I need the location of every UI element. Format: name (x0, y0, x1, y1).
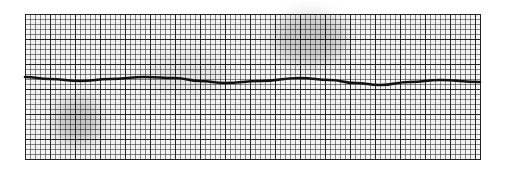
trace-line (0, 0, 505, 173)
